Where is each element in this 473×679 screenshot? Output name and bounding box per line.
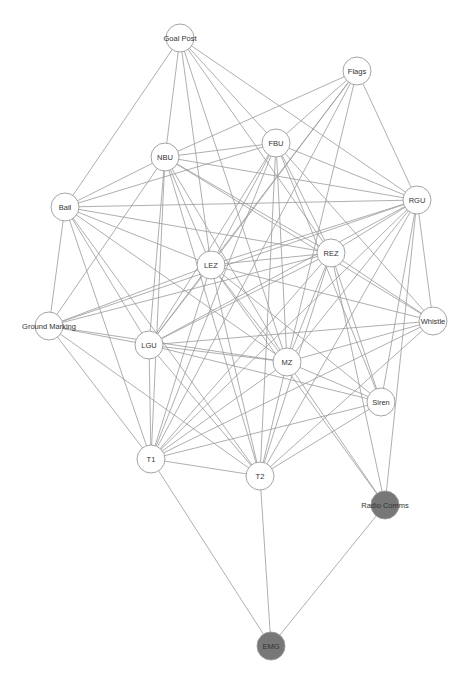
node-t1[interactable]: T1: [137, 445, 165, 473]
edge-rgu-whistle: [417, 200, 433, 321]
node-nbu[interactable]: NBU: [151, 143, 179, 171]
node-goalpost[interactable]: Goal Post: [164, 24, 198, 52]
node-label: Ground Marking: [22, 322, 76, 331]
node-label: Goal Post: [164, 34, 198, 43]
edge-mz-radiocomms: [287, 362, 385, 505]
node-fbu[interactable]: FBU: [262, 129, 290, 157]
node-ball[interactable]: Ball: [51, 193, 79, 221]
edge-rez-lgu: [149, 253, 331, 345]
edge-nbu-t1: [151, 157, 165, 459]
node-label: MZ: [282, 358, 293, 367]
edge-ball-lez: [65, 207, 211, 265]
edge-fbu-t2: [260, 143, 276, 476]
nodes-layer: Goal PostFlagsFBUNBUBallRGULEZREZGround …: [22, 24, 447, 660]
node-flags[interactable]: Flags: [343, 57, 371, 85]
node-label: NBU: [157, 153, 173, 162]
edges-layer: [49, 38, 433, 646]
node-siren[interactable]: Siren: [367, 388, 395, 416]
node-whistle[interactable]: Whistle: [419, 307, 447, 335]
node-label: Radio Comms: [361, 501, 409, 510]
node-lez[interactable]: LEZ: [197, 251, 225, 279]
node-label: Ball: [59, 203, 72, 212]
edge-ball-lgu: [65, 207, 149, 345]
edge-mz-t1: [151, 362, 287, 459]
node-label: T1: [147, 455, 156, 464]
node-label: T2: [256, 472, 265, 481]
edge-fbu-lgu: [149, 143, 276, 345]
node-label: REZ: [324, 249, 339, 258]
edge-ball-t1: [65, 207, 151, 459]
node-t2[interactable]: T2: [246, 462, 274, 490]
edge-t1-t2: [151, 459, 260, 476]
node-label: EMG: [262, 642, 279, 651]
edge-nbu-ball: [65, 157, 165, 207]
edge-fbu-nbu: [165, 143, 276, 157]
edge-ball-mz: [65, 207, 287, 362]
edge-fbu-whistle: [276, 143, 433, 321]
edge-flags-rgu: [357, 71, 417, 200]
node-rgu[interactable]: RGU: [403, 186, 431, 214]
edge-nbu-lez: [165, 157, 211, 265]
edge-siren-t2: [260, 402, 381, 476]
edge-fbu-rez: [276, 143, 331, 253]
edge-t2-emg: [260, 476, 271, 646]
edge-nbu-whistle: [165, 157, 433, 321]
network-graph: Goal PostFlagsFBUNBUBallRGULEZREZGround …: [0, 0, 473, 679]
edge-lgu-t1: [149, 345, 151, 459]
node-label: FBU: [269, 139, 284, 148]
node-radiocomms[interactable]: Radio Comms: [361, 491, 409, 519]
edge-goalpost-rgu: [180, 38, 417, 200]
edge-flags-fbu: [276, 71, 357, 143]
edge-goalpost-nbu: [165, 38, 180, 157]
node-lgu[interactable]: LGU: [135, 331, 163, 359]
edge-ball-groundmarking: [49, 207, 65, 326]
node-label: LGU: [141, 341, 156, 350]
node-emg[interactable]: EMG: [257, 632, 285, 660]
node-label: Siren: [372, 398, 390, 407]
node-groundmarking[interactable]: Ground Marking: [22, 312, 76, 340]
node-mz[interactable]: MZ: [273, 348, 301, 376]
edge-nbu-lgu: [149, 157, 165, 345]
node-label: Whistle: [421, 317, 446, 326]
edge-mz-t2: [260, 362, 287, 476]
node-label: LEZ: [204, 261, 218, 270]
node-label: Flags: [348, 67, 367, 76]
edge-rgu-lez: [211, 200, 417, 265]
edge-rgu-rez: [331, 200, 417, 253]
edge-flags-nbu: [165, 71, 357, 157]
node-label: RGU: [409, 196, 426, 205]
edge-radiocomms-emg: [271, 505, 385, 646]
node-rez[interactable]: REZ: [317, 239, 345, 267]
edge-goalpost-fbu: [180, 38, 276, 143]
